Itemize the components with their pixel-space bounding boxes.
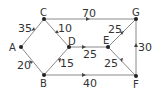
node-label-e: E	[103, 35, 109, 46]
node-label-g: G	[132, 7, 140, 18]
node-f	[134, 74, 138, 78]
graph-diagram: A B C D E F G 35 20 10 15 70 25 40 25 25…	[0, 0, 161, 99]
node-label-a: A	[9, 42, 16, 53]
weight-b-f: 40	[83, 77, 97, 90]
weight-f-g: 30	[138, 41, 152, 54]
weight-d-e: 25	[83, 48, 97, 61]
weight-c-d: 10	[58, 22, 72, 35]
node-label-f: F	[133, 79, 139, 90]
weight-a-c: 35	[18, 22, 32, 35]
node-b	[42, 73, 46, 77]
node-label-b: B	[40, 78, 47, 89]
node-a	[19, 45, 23, 49]
node-label-c: C	[40, 7, 47, 18]
weight-f-e: 25	[104, 57, 118, 70]
weight-a-b: 20	[17, 59, 31, 72]
node-label-d: D	[68, 36, 76, 47]
weight-b-d: 15	[60, 57, 74, 70]
weight-c-g: 70	[82, 7, 96, 20]
weight-e-g: 25	[108, 23, 122, 36]
